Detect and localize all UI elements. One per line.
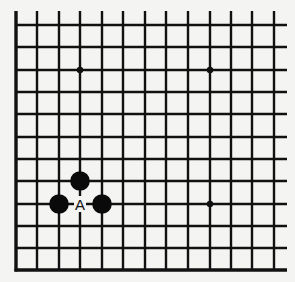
go-board: A (0, 0, 295, 282)
black-stone (70, 171, 90, 191)
star-point (207, 201, 213, 207)
black-stone (49, 194, 69, 214)
board-grid (15, 11, 288, 272)
star-point (207, 67, 213, 73)
black-stone (92, 194, 112, 214)
labels-layer: A (74, 196, 86, 213)
point-label: A (75, 196, 85, 213)
star-point (77, 67, 83, 73)
